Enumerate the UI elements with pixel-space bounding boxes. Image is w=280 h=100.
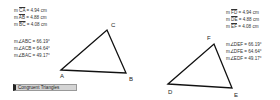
vertex-label-e[interactable]: E — [234, 92, 238, 98]
vertex-label-b[interactable]: B — [129, 76, 133, 82]
vertex-label-c[interactable]: C — [111, 22, 115, 28]
triangle-abc[interactable] — [61, 30, 126, 73]
congruent-triangles-button[interactable]: Congruent Triangles — [13, 84, 77, 91]
vertex-label-d[interactable]: D — [168, 89, 172, 95]
triangle-def[interactable] — [168, 44, 232, 88]
vertex-label-f[interactable]: F — [207, 35, 211, 41]
vertex-label-a[interactable]: A — [60, 73, 64, 79]
